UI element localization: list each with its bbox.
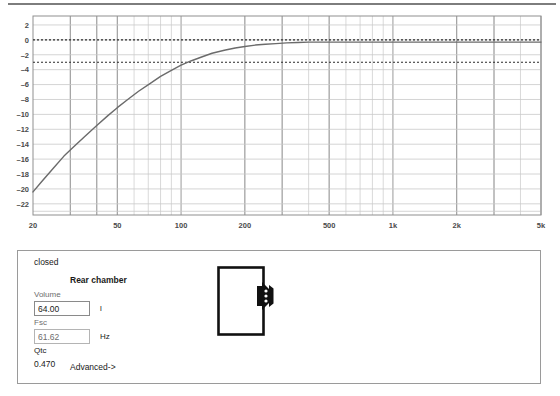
- y-axis-tick-labels: 20–2–4–6–8–10–12–14–16–18–20–22: [16, 21, 29, 209]
- y-tick-label: –12: [16, 125, 29, 134]
- alignment-type-label: closed: [34, 257, 59, 267]
- y-tick-label: –20: [16, 185, 29, 194]
- volume-input[interactable]: [34, 301, 90, 316]
- y-tick-label: –14: [16, 140, 29, 149]
- rear-chamber-parameter-panel: closed Rear chamber Volume l Fsc Hz Qtc …: [17, 250, 541, 384]
- y-tick-label: –4: [21, 65, 30, 74]
- y-tick-label: –8: [21, 95, 29, 104]
- fsc-input[interactable]: [34, 329, 90, 344]
- y-tick-label: 2: [25, 21, 29, 30]
- y-tick-label: –22: [16, 200, 29, 209]
- y-tick-label: –6: [21, 80, 29, 89]
- chart-svg: 20–2–4–6–8–10–12–14–16–18–20–22 20501002…: [0, 10, 560, 242]
- enclosure-box-icon: [219, 268, 264, 335]
- volume-unit-label: l: [100, 304, 102, 313]
- rear-chamber-section-title: Rear chamber: [70, 275, 127, 285]
- x-tick-label: 20: [29, 221, 37, 230]
- x-tick-label: 5k: [537, 221, 546, 230]
- y-tick-label: 0: [25, 36, 29, 45]
- y-tick-label: –2: [21, 51, 29, 60]
- volume-field-label: Volume: [34, 290, 61, 299]
- speaker-driver-icon: [257, 282, 274, 310]
- x-tick-label: 50: [113, 221, 121, 230]
- x-axis-tick-labels: 20501002005001k2k5k: [29, 221, 546, 230]
- y-tick-label: –10: [16, 110, 29, 119]
- qtc-field-label: Qtc: [34, 346, 46, 355]
- header-rule: [8, 3, 556, 5]
- x-tick-label: 500: [323, 221, 336, 230]
- x-tick-label: 2k: [453, 221, 462, 230]
- plot-background: [33, 16, 541, 215]
- advanced-button[interactable]: Advanced->: [70, 362, 116, 372]
- x-tick-label: 100: [175, 221, 188, 230]
- frequency-response-chart: 20–2–4–6–8–10–12–14–16–18–20–22 20501002…: [0, 10, 560, 242]
- closed-box-enclosure-diagram: [216, 265, 286, 345]
- y-tick-label: –16: [16, 155, 29, 164]
- qtc-value: 0.470: [34, 359, 55, 369]
- x-tick-label: 1k: [389, 221, 398, 230]
- fsc-unit-label: Hz: [100, 332, 110, 341]
- x-tick-label: 200: [239, 221, 252, 230]
- y-tick-label: –18: [16, 170, 29, 179]
- fsc-field-label: Fsc: [34, 318, 47, 327]
